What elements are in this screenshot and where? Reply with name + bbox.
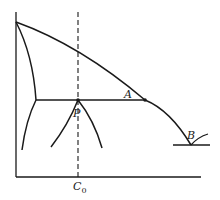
left-lower-curve xyxy=(22,100,36,150)
label-B: B xyxy=(187,130,195,141)
point-A xyxy=(143,98,147,102)
point-P xyxy=(76,98,80,102)
label-C0: C0 xyxy=(73,181,87,195)
label-A: A xyxy=(124,89,132,100)
parabola-right-branch xyxy=(78,100,102,148)
curve-A-to-B xyxy=(145,100,191,145)
label-P: P xyxy=(73,108,80,119)
phase-diagram xyxy=(0,0,220,200)
label-C0-sub: 0 xyxy=(81,186,86,195)
left-steep-curve xyxy=(16,22,36,100)
